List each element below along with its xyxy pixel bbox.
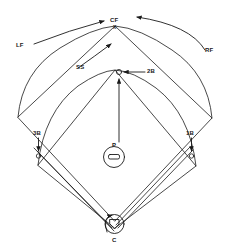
foul-line-right-inner [116, 147, 190, 225]
lf-arrow [34, 21, 104, 44]
outer-diamond [18, 26, 212, 221]
field-graphics [0, 0, 230, 251]
third-base-marker [36, 154, 40, 158]
pitching-rubber [109, 155, 120, 160]
label-third-base: 3B [33, 130, 41, 136]
label-left-field: LF [16, 42, 24, 48]
outfield-fence-arc [18, 26, 212, 118]
label-catcher: C [112, 237, 117, 243]
rf-arrow [137, 17, 205, 50]
label-pitcher: P [112, 142, 116, 148]
label-center-field: CF [110, 17, 118, 23]
pitchers-mound-circle [104, 147, 125, 168]
label-second-base: 2B [147, 68, 155, 74]
infield-dirt-arc [38, 70, 196, 166]
label-center-field-mark: X [113, 25, 117, 30]
foul-line-left-inner [37, 151, 114, 231]
label-right-field: RF [205, 47, 213, 53]
label-shortstop: SS [76, 64, 84, 70]
inner-diamond [38, 70, 196, 228]
baseball-field-diagram: LF CF X RF SS 2B 3B 1B P C [0, 0, 230, 251]
first-base-marker [189, 154, 193, 158]
label-first-base: 1B [186, 130, 194, 136]
foul-line-right-outer [118, 150, 193, 228]
